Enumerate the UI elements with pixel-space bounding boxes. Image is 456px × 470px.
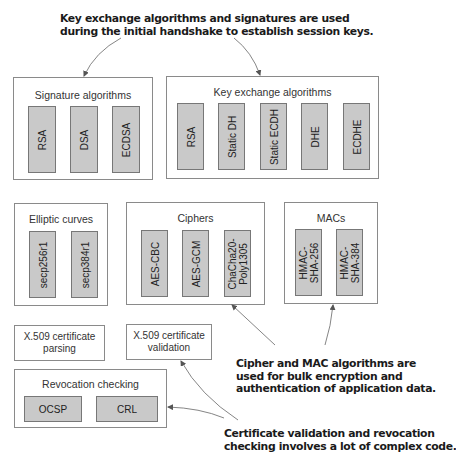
item-ecdhe: ECDHE bbox=[343, 103, 370, 170]
group-signature-algorithms: Signature algorithms RSA DSA ECDSA bbox=[13, 77, 153, 180]
callout-certificate-validation: Certificate validation and revocation ch… bbox=[224, 428, 456, 453]
item-label: DSA bbox=[79, 129, 90, 150]
group-ciphers: Ciphers AES-CBC AES-GCM ChaCha20- Poly13… bbox=[126, 202, 265, 305]
item-ecdsa: ECDSA bbox=[112, 106, 140, 173]
item-label: HMAC- SHA-384 bbox=[339, 242, 361, 283]
item-label: DHE bbox=[309, 126, 320, 147]
group-title: Key exchange algorithms bbox=[167, 86, 378, 98]
callout-handshake-line2: during the initial handshake to establis… bbox=[60, 26, 373, 39]
item-dhe: DHE bbox=[301, 103, 328, 170]
box-label-line1: X.509 certificate bbox=[133, 330, 205, 342]
item-static-ecdh: Static ECDH bbox=[260, 103, 287, 170]
item-label: AES-CBC bbox=[149, 241, 160, 285]
callout-bulk-encryption: Cipher and MAC algorithms are used for b… bbox=[236, 358, 436, 396]
item-label: Static DH bbox=[226, 115, 237, 157]
item-label-line2: SHA-384 bbox=[350, 242, 361, 283]
item-label: secp384r1 bbox=[79, 241, 90, 288]
item-label: ChaCha20- Poly1305 bbox=[227, 238, 249, 289]
box-label-line2: validation bbox=[133, 342, 205, 354]
item-ocsp: OCSP bbox=[24, 396, 82, 422]
group-title: MACs bbox=[285, 212, 377, 224]
callout-line3: authentication of application data. bbox=[236, 383, 436, 396]
arrow-to-ciphers bbox=[232, 305, 275, 345]
item-label: RSA bbox=[185, 126, 196, 147]
box-x509-parsing: X.509 certificate parsing bbox=[14, 325, 105, 361]
box-label-line2: parsing bbox=[24, 343, 96, 355]
item-label: secp256r1 bbox=[37, 241, 48, 288]
callout-handshake-line1: Key exchange algorithms and signatures a… bbox=[60, 13, 373, 26]
item-label: ECDSA bbox=[121, 122, 132, 156]
group-revocation-checking: Revocation checking OCSP CRL bbox=[14, 369, 167, 428]
item-rsa: RSA bbox=[28, 106, 56, 173]
arrow-to-macs bbox=[325, 305, 333, 345]
box-x509-validation: X.509 certificate validation bbox=[126, 324, 212, 360]
item-secp384r1: secp384r1 bbox=[71, 231, 98, 298]
item-label: RSA bbox=[37, 129, 48, 150]
group-key-exchange-algorithms: Key exchange algorithms RSA Static DH St… bbox=[166, 76, 379, 179]
item-label: HMAC- SHA-256 bbox=[298, 242, 320, 283]
item-label: Static ECDH bbox=[268, 108, 279, 164]
group-title: Revocation checking bbox=[15, 378, 166, 390]
item-hmac-sha-256: HMAC- SHA-256 bbox=[295, 229, 322, 296]
item-aes-gcm: AES-GCM bbox=[182, 230, 209, 297]
arrow-to-signature bbox=[84, 38, 121, 76]
item-label: OCSP bbox=[25, 404, 81, 415]
group-title: Signature algorithms bbox=[14, 89, 152, 101]
item-aes-cbc: AES-CBC bbox=[141, 230, 168, 297]
box-label-line1: X.509 certificate bbox=[24, 331, 96, 343]
group-macs: MACs HMAC- SHA-256 HMAC- SHA-384 bbox=[284, 202, 378, 304]
item-chacha20-poly1305: ChaCha20- Poly1305 bbox=[224, 230, 251, 297]
item-dsa: DSA bbox=[70, 106, 98, 173]
group-title: Elliptic curves bbox=[15, 213, 107, 225]
arrow-to-x509-validation bbox=[181, 361, 238, 420]
item-static-dh: Static DH bbox=[218, 103, 245, 170]
item-label-line2: SHA-256 bbox=[309, 242, 320, 283]
item-label: ECDHE bbox=[351, 119, 362, 154]
item-rsa: RSA bbox=[177, 103, 204, 170]
item-crl: CRL bbox=[96, 396, 158, 422]
callout-line1: Certificate validation and revocation bbox=[224, 428, 456, 441]
arrow-to-revocation bbox=[168, 407, 224, 418]
item-label-line1: HMAC- bbox=[298, 242, 309, 283]
group-elliptic-curves: Elliptic curves secp256r1 secp384r1 bbox=[14, 203, 108, 306]
item-label-line1: HMAC- bbox=[339, 242, 350, 283]
callout-handshake: Key exchange algorithms and signatures a… bbox=[60, 13, 373, 38]
callout-line2: checking involves a lot of complex code. bbox=[224, 441, 456, 454]
item-label-line2: Poly1305 bbox=[238, 238, 249, 289]
item-label: AES-GCM bbox=[190, 240, 201, 287]
item-secp256r1: secp256r1 bbox=[29, 231, 56, 298]
arrow-to-key-exchange bbox=[234, 38, 260, 75]
callout-line1: Cipher and MAC algorithms are bbox=[236, 358, 436, 371]
group-title: Ciphers bbox=[127, 212, 264, 224]
item-label-line1: ChaCha20- bbox=[227, 238, 238, 289]
item-hmac-sha-384: HMAC- SHA-384 bbox=[336, 229, 363, 296]
item-label: CRL bbox=[97, 404, 157, 415]
